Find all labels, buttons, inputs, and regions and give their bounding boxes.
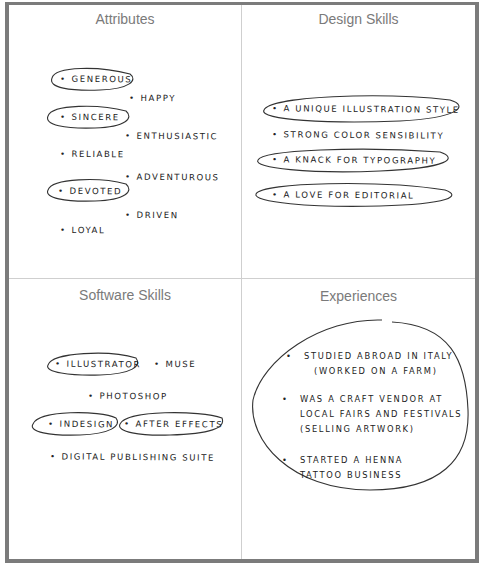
attribute-devoted: •Devoted [58,186,122,197]
software-muse: •Muse [154,359,196,369]
software-dps: •Digital Publishing Suite [50,451,215,462]
software-label: Digital Publishing Suite [62,451,215,462]
software-label: Photoshop [100,391,168,402]
attribute-label: Loyal [72,225,106,235]
attribute-label: Sincere [72,112,120,122]
software-label: InDesign [60,419,115,429]
quadrant-title-design-skills: Design Skills [242,11,475,27]
software-indesign: •InDesign [48,419,114,430]
attribute-label: Reliable [72,149,125,159]
design-skill-label: A love for editorial [284,189,415,200]
attribute-label: Adventurous [137,172,220,183]
design-skill-illustration: •A unique illustration style [272,103,460,115]
software-photoshop: •Photoshop [88,391,168,402]
attribute-sincere: •Sincere [60,112,120,123]
experience-item-1: • Studied abroad in Italy (worked on a f… [304,349,453,379]
bullet: • [272,154,279,164]
bullet: • [48,419,55,429]
bullet: • [60,149,67,159]
bullet: • [272,189,279,199]
quadrant-title-software-skills: Software Skills [9,287,241,303]
attribute-generous: •Generous [60,74,132,85]
bullet: • [286,349,293,364]
bullet: • [124,419,131,429]
bullet: • [125,210,132,220]
software-label: Muse [166,359,197,369]
experience-line: (selling artwork) [300,422,462,437]
design-skill-label: Strong color sensibility [284,129,445,140]
bullet: • [60,112,67,122]
attribute-driven: •Driven [125,210,179,220]
software-label: Illustrator [67,359,142,370]
experience-line: tattoo business [300,468,403,483]
quadrant-title-attributes: Attributes [9,11,241,27]
experience-line: Started a henna [300,453,403,468]
bullet: • [60,225,67,235]
attribute-happy: •Happy [129,93,176,103]
design-skill-typography: •A knack for typography [272,154,436,165]
software-label: After Effects [136,419,224,430]
bullet: • [282,392,289,407]
attribute-adventurous: •Adventurous [125,172,220,183]
attribute-label: Happy [141,93,177,103]
software-after-effects: •After Effects [124,419,223,430]
attribute-loyal: •Loyal [60,225,105,235]
experience-line: (worked on a farm) [304,364,453,379]
design-skill-label: A unique illustration style [284,103,460,115]
attribute-label: Driven [137,210,179,220]
bullet: • [60,74,67,84]
attribute-label: Devoted [70,186,123,196]
bullet: • [55,359,62,369]
experience-item-2: • Was a craft vendor at local fairs and … [300,392,462,437]
experience-line: Was a craft vendor at [300,392,462,407]
bullet: • [154,359,161,369]
quadrant-title-experiences: Experiences [242,288,475,304]
experience-line: local fairs and festivals [300,407,462,422]
quadrant-frame [5,2,479,563]
software-illustrator: •Illustrator [55,359,141,370]
bullet: • [58,186,65,196]
vertical-divider [241,5,242,559]
design-skill-color: •Strong color sensibility [272,129,444,141]
bullet: • [125,131,132,141]
experience-line: Studied abroad in Italy [304,349,453,364]
bullet: • [125,172,132,182]
bullet: • [272,129,279,139]
design-skill-label: A knack for typography [284,154,437,165]
bullet: • [50,451,57,461]
bullet: • [272,103,279,113]
bullet: • [282,453,289,468]
bullet: • [129,93,136,103]
experience-item-3: • Started a henna tattoo business [300,453,403,483]
attribute-reliable: •Reliable [60,149,125,160]
bullet: • [88,391,95,401]
attribute-label: Enthusiastic [137,131,219,142]
attribute-label: Generous [72,74,133,85]
design-skill-editorial: •A love for editorial [272,189,415,200]
attribute-enthusiastic: •Enthusiastic [125,131,218,142]
horizontal-divider [9,278,475,279]
